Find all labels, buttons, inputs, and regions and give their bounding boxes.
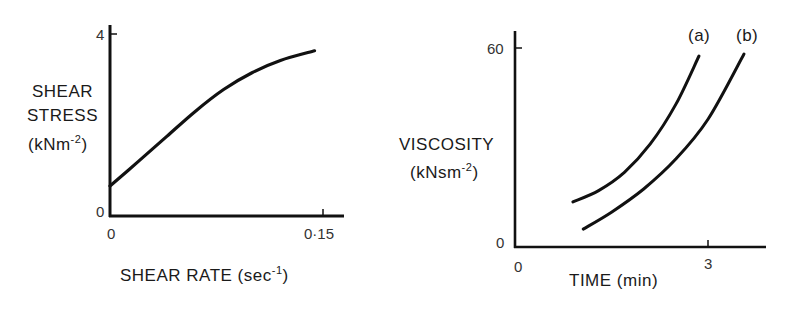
shear-stress-chart (109, 25, 344, 217)
left-ytick-0: 0 (96, 204, 104, 219)
right-ytick-60: 60 (487, 41, 504, 56)
left-ylabel-line-1: SHEAR (32, 83, 93, 100)
legend-label-b: (b) (736, 27, 758, 44)
legend-label-a: (a) (688, 27, 710, 44)
viscosity-curve-a (573, 56, 699, 202)
viscosity-curve-b (583, 54, 744, 229)
left-ytick-4: 4 (96, 27, 104, 42)
right-ytick-0: 0 (496, 235, 504, 250)
left-xlabel: SHEAR RATE (sec-1) (120, 265, 289, 284)
right-xtick-3: 3 (704, 256, 712, 271)
left-xtick-015: 0·15 (304, 226, 334, 241)
left-ylabel-line-2: STRESS (27, 107, 98, 124)
left-xtick-0: 0 (107, 226, 115, 241)
viscosity-chart (514, 31, 766, 248)
right-ylabel: VISCOSITY (399, 136, 494, 153)
right-ylabel-unit: (kNsm-2) (410, 162, 479, 181)
shear-stress-curve (110, 51, 315, 186)
right-xtick-0: 0 (514, 259, 522, 274)
right-xlabel: TIME (min) (569, 272, 658, 289)
chart-canvas (0, 0, 793, 313)
left-ylabel-unit: (kNm-2) (28, 134, 88, 153)
